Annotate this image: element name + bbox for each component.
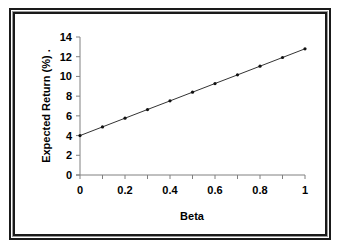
data-series	[78, 47, 306, 137]
y-axis: 02468101214	[60, 31, 80, 181]
data-point-marker	[146, 108, 149, 111]
x-tick-label: 0.2	[117, 184, 132, 196]
y-tick-label: 10	[60, 70, 72, 82]
x-tick-label: 0	[77, 184, 83, 196]
x-tick-label: 0.8	[252, 184, 267, 196]
data-point-marker	[123, 117, 126, 120]
data-point-marker	[303, 47, 306, 50]
data-point-marker	[281, 56, 284, 59]
line-chart: 02468101214 00.20.40.60.81 Beta Expected…	[0, 0, 340, 249]
y-axis-title: Expected Return (%) .	[40, 49, 52, 163]
data-point-marker	[213, 82, 216, 85]
y-tick-label: 12	[60, 51, 72, 63]
data-point-marker	[168, 99, 171, 102]
data-point-marker	[191, 91, 194, 94]
data-point-marker	[236, 73, 239, 76]
data-point-marker	[101, 125, 104, 128]
x-tick-label: 0.6	[207, 184, 222, 196]
y-tick-label: 4	[66, 130, 73, 142]
y-tick-label: 14	[60, 31, 73, 43]
x-tick-label: 1	[302, 184, 308, 196]
data-point-marker	[78, 134, 81, 137]
y-tick-label: 8	[66, 90, 72, 102]
x-axis: 00.20.40.60.81	[76, 175, 308, 196]
x-tick-label: 0.4	[162, 184, 178, 196]
data-point-marker	[258, 65, 261, 68]
y-tick-label: 2	[66, 149, 72, 161]
y-tick-label: 6	[66, 110, 72, 122]
y-tick-label: 0	[66, 169, 72, 181]
x-axis-title: Beta	[180, 210, 205, 222]
